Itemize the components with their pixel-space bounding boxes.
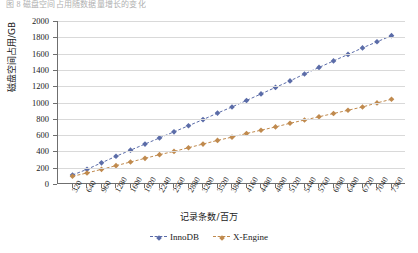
figure-container: 图 8 磁盘空间占用随数据量增长的变化 磁盘空间占用/GB 0200400600…	[0, 0, 418, 253]
legend-line-innodb	[150, 236, 167, 238]
grid-line	[58, 135, 405, 136]
data-point-innodb	[287, 78, 293, 84]
data-point-x-engine	[200, 141, 206, 147]
grid-line	[58, 54, 405, 55]
legend-label-xengine: X-Engine	[233, 232, 268, 242]
data-point-x-engine	[84, 170, 90, 176]
data-point-innodb	[171, 129, 177, 135]
data-point-x-engine	[258, 127, 264, 133]
legend-item-xengine[interactable]: X-Engine	[213, 232, 268, 242]
data-point-x-engine	[273, 124, 279, 130]
legend-item-innodb[interactable]: InnoDB	[150, 232, 199, 242]
y-axis-tick-label: 200	[36, 163, 49, 172]
data-point-x-engine	[331, 111, 337, 117]
grid-line	[58, 103, 405, 104]
plot-area	[57, 21, 405, 184]
data-point-x-engine	[360, 104, 366, 110]
legend-marker-xengine	[219, 235, 225, 241]
grid-line	[58, 168, 405, 169]
data-point-innodb	[360, 45, 366, 51]
data-point-innodb	[374, 39, 380, 45]
y-axis-tick-label: 1200	[32, 82, 49, 91]
grid-line	[58, 119, 405, 120]
data-point-innodb	[99, 160, 105, 166]
y-axis-tick-label: 400	[36, 147, 49, 156]
data-point-innodb	[331, 58, 337, 64]
data-point-x-engine	[215, 138, 221, 144]
y-axis-tick-label: 2000	[32, 17, 49, 26]
data-point-innodb	[258, 91, 264, 97]
data-point-x-engine	[128, 159, 134, 165]
data-point-x-engine	[287, 120, 293, 126]
data-point-x-engine	[157, 152, 163, 158]
grid-line	[58, 151, 405, 152]
y-axis-tick-label: 1400	[32, 66, 49, 75]
grid-line	[58, 86, 405, 87]
data-point-innodb	[186, 123, 192, 129]
data-point-x-engine	[142, 156, 148, 162]
data-point-innodb	[215, 110, 221, 116]
data-point-innodb	[229, 104, 235, 110]
y-axis-tick-label: 1000	[32, 98, 49, 107]
x-axis-title: 记录条数/百万	[0, 212, 418, 222]
y-axis: 磁盘空间占用/GB 020040060080010001200140016001…	[0, 0, 57, 200]
y-axis-tick-label: 600	[36, 131, 49, 140]
grid-line	[58, 70, 405, 71]
grid-line	[58, 37, 405, 38]
data-point-x-engine	[186, 145, 192, 151]
legend-marker-innodb	[156, 235, 162, 241]
data-point-x-engine	[345, 107, 351, 113]
y-axis-tick-label: 1600	[32, 49, 49, 58]
data-point-innodb	[113, 153, 119, 159]
y-axis-title: 磁盘空间占用/GB	[7, 0, 17, 117]
legend-label-innodb: InnoDB	[170, 232, 199, 242]
legend-line-xengine	[213, 236, 230, 238]
data-point-x-engine	[389, 96, 395, 102]
y-axis-tick-label: 1800	[32, 33, 49, 42]
chart-legend: InnoDB X-Engine	[0, 232, 418, 242]
data-point-innodb	[142, 141, 148, 147]
data-point-innodb	[302, 71, 308, 77]
grid-line	[58, 21, 405, 22]
y-axis-tick-label: 800	[36, 115, 49, 124]
